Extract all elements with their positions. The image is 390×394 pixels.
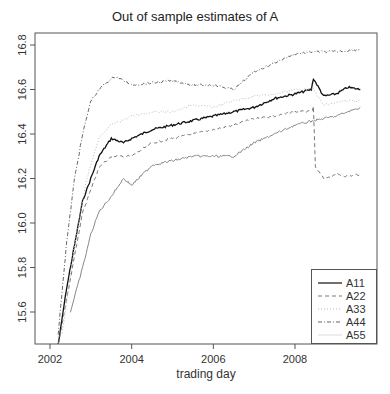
line-dotted-icon xyxy=(318,302,342,316)
legend-label: A11 xyxy=(346,276,365,290)
y-axis: 15.615.816.016.216.416.616.8 xyxy=(16,34,35,322)
y-tick-label: 16.2 xyxy=(16,168,28,189)
legend-label: A44 xyxy=(346,315,366,329)
legend: A11 A22 A33 A44 A55 xyxy=(311,269,377,344)
line-solid-icon xyxy=(318,276,342,290)
legend-item-a33: A33 xyxy=(312,302,376,316)
legend-item-a44: A44 xyxy=(312,315,376,329)
y-tick-label: 15.6 xyxy=(16,301,28,322)
line-dashed-icon xyxy=(318,289,342,303)
y-tick-label: 16.0 xyxy=(16,212,28,233)
legend-item-a55: A55 xyxy=(312,328,376,342)
y-tick-label: 16.4 xyxy=(16,123,28,144)
x-axis: 2002200420062008 xyxy=(38,344,307,365)
legend-label: A55 xyxy=(346,328,366,342)
x-tick-label: 2002 xyxy=(38,353,62,365)
legend-label: A33 xyxy=(346,302,366,316)
y-tick-label: 15.8 xyxy=(16,257,28,278)
line-dashdot-icon xyxy=(318,315,342,329)
y-tick-label: 16.6 xyxy=(16,79,28,100)
y-tick-label: 16.8 xyxy=(16,34,28,55)
legend-item-a22: A22 xyxy=(312,289,376,303)
x-axis-label: trading day xyxy=(35,367,377,381)
x-tick-label: 2006 xyxy=(201,353,225,365)
legend-label: A22 xyxy=(346,289,366,303)
legend-item-a11: A11 xyxy=(312,276,376,290)
x-tick-label: 2004 xyxy=(119,353,143,365)
line-light-icon xyxy=(318,328,342,342)
x-tick-label: 2008 xyxy=(283,353,307,365)
